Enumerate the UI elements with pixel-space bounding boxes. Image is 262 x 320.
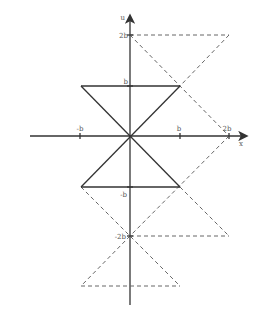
x-axis-label: x <box>239 140 243 148</box>
hourglass-diagram: u x -b b 2b 2b b -b -2b <box>0 0 262 320</box>
y-axis-label: u <box>120 14 125 22</box>
x-tick-2b: 2b <box>223 125 232 133</box>
y-tick-neg-2b: -2b <box>115 233 127 241</box>
y-tick-b: b <box>124 78 129 86</box>
x-tick-b: b <box>177 125 182 133</box>
dashed-lines <box>81 35 229 286</box>
y-tick-2b: 2b <box>119 32 128 40</box>
x-tick-neg-b: -b <box>77 125 84 133</box>
y-tick-neg-b: -b <box>120 191 127 199</box>
